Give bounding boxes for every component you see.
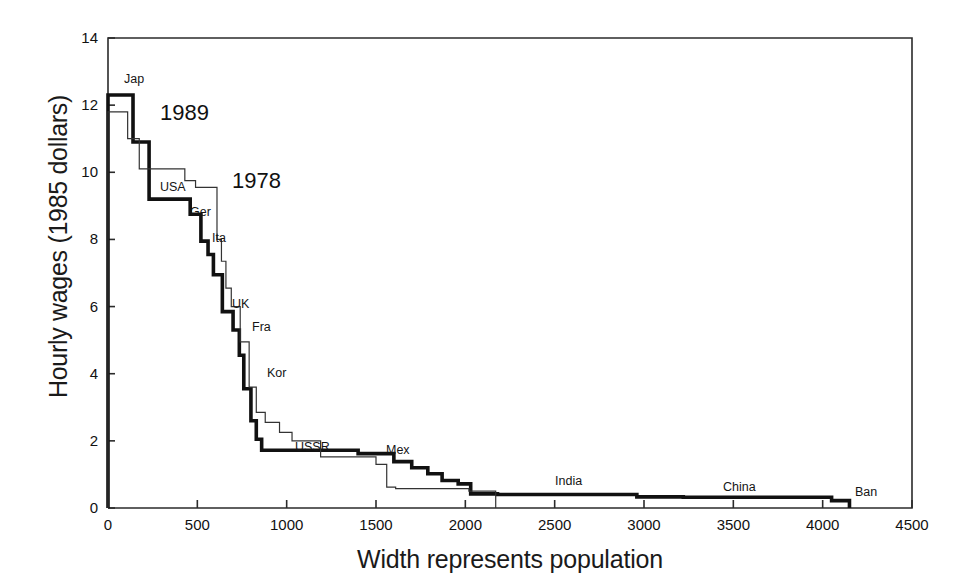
country-label-jap: Jap	[124, 72, 144, 86]
y-tick-label: 6	[64, 298, 98, 315]
country-label-uk: UK	[232, 297, 249, 311]
country-label-ita: Ita	[212, 231, 226, 245]
country-label-china: China	[723, 480, 756, 494]
y-tick-label: 12	[64, 96, 98, 113]
y-tick-label: 4	[64, 365, 98, 382]
series-label-1989: 1989	[160, 100, 209, 126]
country-label-kor: Kor	[267, 366, 286, 380]
country-label-ban: Ban	[855, 485, 877, 499]
plot-frame	[108, 38, 912, 508]
country-label-ussr: USSR	[295, 440, 330, 454]
x-tick-label: 1000	[255, 516, 319, 533]
x-tick-label: 4000	[791, 516, 855, 533]
y-tick-label: 10	[64, 163, 98, 180]
country-label-ger: Ger	[190, 205, 211, 219]
x-tick-label: 0	[76, 516, 140, 533]
chart-figure: Hourly wages (1985 dollars) Width repres…	[0, 0, 965, 587]
country-label-mex: Mex	[386, 443, 410, 457]
country-label-india: India	[555, 474, 582, 488]
chart-canvas	[0, 0, 965, 587]
x-tick-label: 1500	[344, 516, 408, 533]
y-tick-label: 0	[64, 499, 98, 516]
y-tick-label: 14	[64, 29, 98, 46]
x-tick-label: 4500	[880, 516, 944, 533]
series-line-1989	[108, 95, 849, 508]
x-axis-title: Width represents population	[108, 545, 912, 574]
country-label-usa: USA	[160, 180, 186, 194]
y-tick-label: 2	[64, 432, 98, 449]
y-tick-label: 8	[64, 230, 98, 247]
x-tick-label: 3000	[612, 516, 676, 533]
series-lines	[108, 95, 849, 508]
x-tick-label: 3500	[701, 516, 765, 533]
x-tick-label: 500	[165, 516, 229, 533]
country-label-fra: Fra	[252, 320, 271, 334]
axis-ticks	[108, 38, 912, 508]
x-tick-label: 2500	[523, 516, 587, 533]
x-tick-label: 2000	[433, 516, 497, 533]
axes-frame	[108, 38, 912, 508]
series-label-1978: 1978	[232, 168, 281, 194]
